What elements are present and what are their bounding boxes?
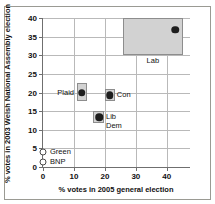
y-axis-tick bbox=[39, 37, 43, 38]
x-axis-tick bbox=[105, 167, 106, 171]
gridline-horizontal bbox=[43, 111, 190, 112]
plot-area: 0510152025303540010203040LabPlaidConLibD… bbox=[42, 18, 190, 168]
y-axis-tick bbox=[39, 74, 43, 75]
y-axis-title: % votes in 2003 Welsh National Assembly … bbox=[2, 18, 13, 168]
x-axis-tick bbox=[167, 167, 168, 171]
data-label-lib-dem: LibDem bbox=[106, 113, 122, 130]
y-axis-tick-label: 25 bbox=[28, 69, 37, 78]
data-point-lab bbox=[171, 26, 179, 34]
gridline-horizontal bbox=[43, 55, 190, 56]
y-axis-tick bbox=[39, 93, 43, 94]
x-axis-tick-label: 30 bbox=[131, 172, 140, 181]
data-label-lab: Lab bbox=[147, 57, 160, 66]
y-axis-tick-label: 15 bbox=[28, 107, 37, 116]
y-axis-tick-label: 0 bbox=[33, 163, 37, 172]
y-axis-tick bbox=[39, 55, 43, 56]
data-label-plaid: Plaid bbox=[57, 89, 74, 98]
gridline-vertical bbox=[74, 18, 75, 167]
y-axis-tick-label: 5 bbox=[33, 144, 37, 153]
data-point-con bbox=[106, 91, 114, 99]
y-axis-tick-label: 30 bbox=[28, 51, 37, 60]
y-axis-tick bbox=[39, 130, 43, 131]
x-axis-tick bbox=[136, 167, 137, 171]
chart-figure: % votes in 2003 Welsh National Assembly … bbox=[0, 0, 215, 204]
y-axis-title-text: % votes in 2003 Welsh National Assembly … bbox=[3, 3, 12, 182]
data-point-green bbox=[40, 149, 47, 156]
x-axis-title: % votes in 2005 general election bbox=[42, 185, 190, 194]
x-axis-tick bbox=[74, 167, 75, 171]
x-axis-tick-label: 20 bbox=[100, 172, 109, 181]
y-axis-tick-label: 40 bbox=[28, 14, 37, 23]
x-axis-tick-label: 40 bbox=[162, 172, 171, 181]
gridline-horizontal bbox=[43, 74, 190, 75]
y-axis-tick-label: 20 bbox=[28, 88, 37, 97]
data-label-bnp: BNP bbox=[50, 158, 65, 167]
y-axis-tick-label: 35 bbox=[28, 32, 37, 41]
uncertainty-band-lab bbox=[123, 18, 183, 55]
x-axis-tick-label: 10 bbox=[69, 172, 78, 181]
y-axis-tick bbox=[39, 18, 43, 19]
x-axis-tick-label: 0 bbox=[41, 172, 45, 181]
y-axis-tick bbox=[39, 111, 43, 112]
data-label-green: Green bbox=[50, 148, 71, 157]
data-label-con: Con bbox=[117, 91, 131, 100]
data-point-lib-dem bbox=[95, 113, 103, 121]
data-point-plaid bbox=[78, 89, 86, 97]
x-axis-tick bbox=[43, 167, 44, 171]
y-axis-tick-label: 10 bbox=[28, 125, 37, 134]
data-point-bnp bbox=[40, 158, 47, 165]
